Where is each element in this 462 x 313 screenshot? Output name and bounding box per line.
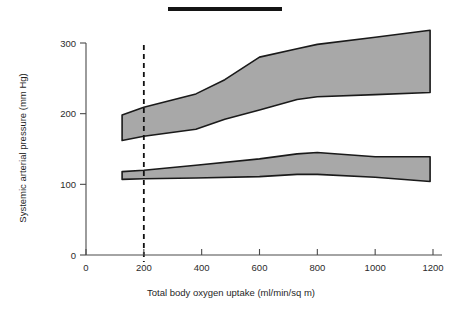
- chart-canvas: 0100200300 020040060080010001200 Total b…: [0, 0, 462, 313]
- y-tick-label: 200: [60, 108, 76, 119]
- x-tick-label: 1200: [422, 262, 443, 273]
- x-tick-label: 600: [252, 262, 268, 273]
- y-axis-title: Systemic arterial pressure (mm Hg): [17, 73, 28, 222]
- x-axis-title: Total body oxygen uptake (ml/min/sq m): [147, 287, 315, 298]
- y-tick-label: 0: [71, 250, 76, 261]
- x-axis-ticks: [86, 249, 433, 255]
- top-black-rule: [168, 7, 282, 11]
- y-axis-ticks: [80, 43, 86, 255]
- x-tick-label: 800: [309, 262, 325, 273]
- plot-bands: [122, 30, 430, 181]
- y-tick-label: 300: [60, 38, 76, 49]
- x-tick-label: 0: [83, 262, 88, 273]
- y-tick-label: 100: [60, 179, 76, 190]
- band-upper-systolic: [122, 30, 430, 140]
- x-tick-label: 1000: [365, 262, 386, 273]
- chart-figure: 0100200300 020040060080010001200 Total b…: [0, 0, 462, 313]
- x-tick-label: 200: [136, 262, 152, 273]
- band-lower-diastolic: [122, 153, 430, 182]
- x-tick-label: 400: [194, 262, 210, 273]
